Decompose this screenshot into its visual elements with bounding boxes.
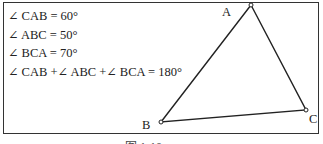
vertex-c-point (304, 108, 308, 112)
vertex-a-point (249, 3, 253, 7)
vertex-c-label: C (309, 112, 317, 127)
vertex-b-point (159, 120, 163, 124)
vertex-b-label: B (142, 118, 150, 133)
figure-caption: 图 1-10 (125, 137, 162, 144)
vertex-a-label: A (222, 5, 231, 20)
triangle-diagram (0, 0, 323, 144)
